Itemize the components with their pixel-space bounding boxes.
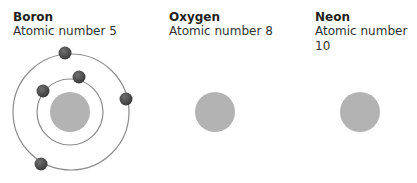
atom-neon: [340, 92, 380, 132]
nucleus: [195, 92, 235, 132]
electron: [73, 71, 86, 84]
nucleus: [340, 92, 380, 132]
atom-diagram: [0, 0, 417, 183]
electron: [37, 85, 50, 98]
atom-oxygen: [195, 92, 235, 132]
electron: [35, 158, 48, 171]
electron: [120, 93, 133, 106]
atom-boron: [13, 47, 133, 171]
electron: [59, 47, 72, 60]
nucleus: [50, 92, 90, 132]
